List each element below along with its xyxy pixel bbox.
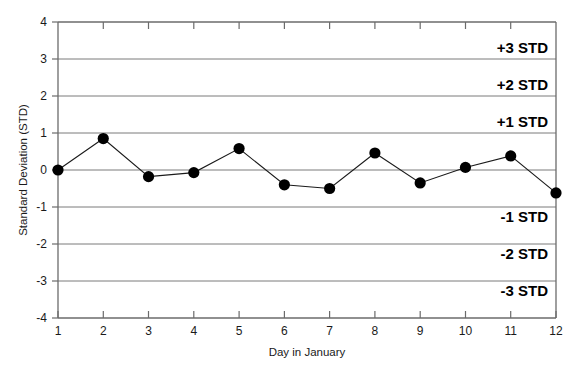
- data-point-day-12: [550, 187, 561, 198]
- y-tick-label-1: 1: [40, 126, 47, 140]
- data-point-day-2: [98, 133, 109, 144]
- data-point-day-4: [188, 167, 199, 178]
- y-tick-label-2: 2: [40, 89, 47, 103]
- data-point-day-7: [324, 183, 335, 194]
- x-tick-label-9: 9: [417, 324, 424, 338]
- x-tick-label-5: 5: [236, 324, 243, 338]
- y-tick-label-minus4: -4: [36, 311, 47, 325]
- x-tick-label-6: 6: [281, 324, 288, 338]
- data-point-day-10: [460, 162, 471, 173]
- data-point-day-1: [52, 164, 63, 175]
- x-tick-labels: 1 2 3 4 5 6 7 8 9 10 11 12: [55, 324, 563, 338]
- x-tick-label-10: 10: [459, 324, 473, 338]
- y-tick-label-minus2: -2: [36, 237, 47, 251]
- x-tick-label-3: 3: [145, 324, 152, 338]
- x-tick-label-1: 1: [55, 324, 62, 338]
- chart-container: 4 3 2 1 0 -1 -2 -3 -4 1 2 3 4 5 6 7 8 9 …: [0, 0, 584, 379]
- x-tick-label-12: 12: [549, 324, 563, 338]
- band-label-minus1: -1 STD: [500, 208, 548, 225]
- x-tick-label-2: 2: [100, 324, 107, 338]
- band-label-plus1: +1 STD: [497, 113, 548, 130]
- data-point-day-5: [233, 143, 244, 154]
- y-tick-label-0: 0: [40, 163, 47, 177]
- band-label-minus3: -3 STD: [500, 282, 548, 299]
- x-tick-label-8: 8: [372, 324, 379, 338]
- y-tick-labels: 4 3 2 1 0 -1 -2 -3 -4: [36, 15, 47, 325]
- y-tick-label-minus3: -3: [36, 274, 47, 288]
- x-tick-label-11: 11: [504, 324, 517, 338]
- y-axis-title: Standard Deviation (STD): [17, 104, 29, 236]
- y-tick-label-3: 3: [40, 52, 47, 66]
- data-point-day-6: [279, 179, 290, 190]
- y-tick-label-4: 4: [40, 15, 47, 29]
- band-label-minus2: -2 STD: [500, 245, 548, 262]
- data-point-day-8: [369, 147, 380, 158]
- data-point-day-9: [415, 177, 426, 188]
- x-tick-label-4: 4: [190, 324, 197, 338]
- data-point-day-3: [143, 171, 154, 182]
- x-axis-title: Day in January: [269, 346, 346, 358]
- x-tick-label-7: 7: [326, 324, 333, 338]
- band-label-plus2: +2 STD: [497, 76, 548, 93]
- y-tick-label-minus1: -1: [36, 200, 47, 214]
- std-deviation-line-chart: 4 3 2 1 0 -1 -2 -3 -4 1 2 3 4 5 6 7 8 9 …: [0, 0, 584, 379]
- band-label-plus3: +3 STD: [497, 39, 548, 56]
- data-point-day-11: [505, 150, 516, 161]
